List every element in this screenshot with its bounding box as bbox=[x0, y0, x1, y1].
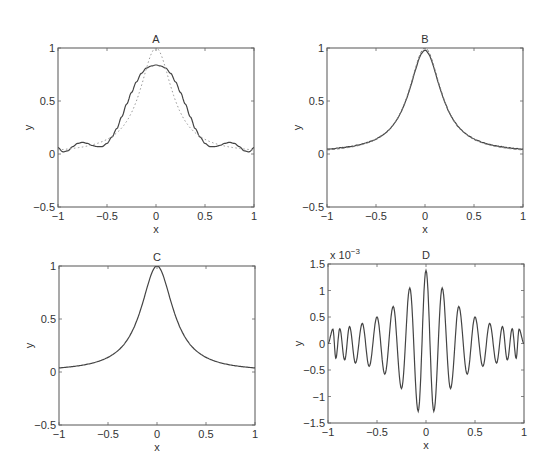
x-tick-label: −0.5 bbox=[96, 210, 118, 222]
plot-area bbox=[58, 48, 254, 152]
x-tick-label: 0.5 bbox=[466, 210, 481, 222]
x-tick-label: 1 bbox=[252, 428, 258, 440]
y-tick-label: −0.5 bbox=[302, 201, 324, 213]
plot-area bbox=[327, 48, 523, 150]
subplot-b: −1−0.500.51−0.500.51Bxy bbox=[291, 33, 526, 235]
axes-frame bbox=[327, 48, 523, 207]
subplot-d: −1−0.500.51−1.5−1−0.500.511.5Dxyx 10−3 bbox=[292, 247, 527, 451]
axes-frame bbox=[58, 48, 254, 207]
y-tick-label: −1 bbox=[312, 391, 325, 403]
subplot-c: −1−0.500.51−0.500.51Cxy bbox=[23, 251, 258, 453]
x-tick-label: 0.5 bbox=[198, 428, 213, 440]
y-tick-label: 1 bbox=[319, 285, 325, 297]
series-line bbox=[328, 270, 524, 411]
x-tick-label: −0.5 bbox=[366, 426, 388, 438]
y-tick-label: −0.5 bbox=[33, 201, 55, 213]
y-tick-label: 0.5 bbox=[309, 95, 324, 107]
figure-canvas: −1−0.500.51−0.500.51Axy −1−0.500.51−0.50… bbox=[0, 0, 552, 471]
subplot-a: −1−0.500.51−0.500.51Axy bbox=[22, 33, 257, 235]
x-tick-label: 1 bbox=[521, 426, 527, 438]
plot-area bbox=[328, 270, 524, 411]
y-tick-label: 1 bbox=[50, 260, 56, 272]
axes-frame bbox=[59, 266, 255, 425]
x-tick-label: −0.5 bbox=[97, 428, 119, 440]
series-line bbox=[59, 266, 255, 368]
x-tick-label: 0 bbox=[153, 210, 159, 222]
subplot-title: A bbox=[152, 33, 160, 45]
x-tick-label: 0.5 bbox=[197, 210, 212, 222]
axes-frame bbox=[328, 264, 524, 423]
y-tick-label: 0.5 bbox=[310, 311, 325, 323]
x-tick-label: 1 bbox=[520, 210, 526, 222]
series-line bbox=[327, 50, 523, 149]
y-tick-label: −0.5 bbox=[34, 419, 56, 431]
y-tick-label: 1 bbox=[318, 42, 324, 54]
x-tick-label: 0.5 bbox=[467, 426, 482, 438]
y-axis-label: y bbox=[291, 124, 303, 130]
subplot-title: C bbox=[153, 251, 161, 263]
plot-area bbox=[59, 266, 255, 368]
y-axis-label: y bbox=[292, 340, 304, 346]
y-tick-label: 0 bbox=[50, 366, 56, 378]
y-tick-label: 0 bbox=[318, 148, 324, 160]
x-tick-label: 0 bbox=[422, 210, 428, 222]
x-axis-label: x bbox=[154, 441, 160, 453]
x-axis-label: x bbox=[153, 223, 159, 235]
x-tick-label: 0 bbox=[423, 426, 429, 438]
x-axis-label: x bbox=[423, 439, 429, 451]
subplot-title: D bbox=[422, 249, 430, 261]
series-line bbox=[58, 48, 254, 150]
y-tick-label: −1.5 bbox=[303, 417, 325, 429]
series-line bbox=[327, 48, 523, 150]
subplot-title: B bbox=[421, 33, 428, 45]
x-axis-label: x bbox=[422, 223, 428, 235]
y-tick-label: 0 bbox=[49, 148, 55, 160]
y-axis-label: y bbox=[23, 342, 35, 348]
y-tick-label: 0.5 bbox=[40, 95, 55, 107]
series-line bbox=[58, 65, 254, 152]
y-tick-label: 1.5 bbox=[310, 258, 325, 270]
y-scale-factor: x 10−3 bbox=[330, 247, 360, 261]
y-tick-label: 1 bbox=[49, 42, 55, 54]
y-axis-label: y bbox=[22, 124, 34, 130]
x-tick-label: 1 bbox=[251, 210, 257, 222]
x-tick-label: 0 bbox=[154, 428, 160, 440]
x-tick-label: −0.5 bbox=[365, 210, 387, 222]
y-tick-label: −0.5 bbox=[303, 364, 325, 376]
y-tick-label: 0 bbox=[319, 338, 325, 350]
y-tick-label: 0.5 bbox=[41, 313, 56, 325]
